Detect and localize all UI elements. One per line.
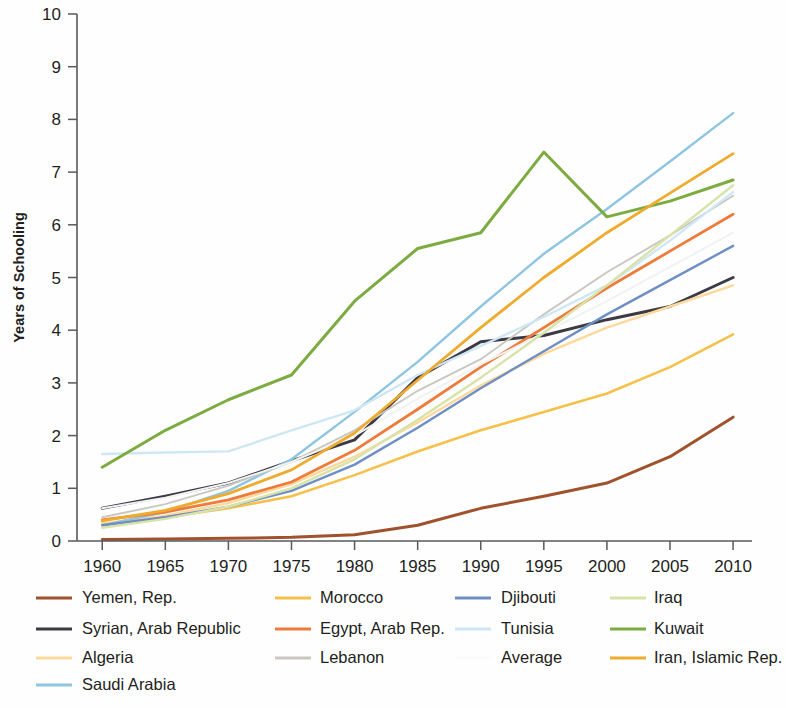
legend-item[interactable]: Iran, Islamic Rep. (610, 648, 782, 666)
legend-item[interactable]: Saudi Arabia (36, 675, 176, 693)
legend-label: Algeria (82, 648, 134, 666)
legend-label: Tunisia (501, 619, 554, 637)
legend-label: Lebanon (320, 648, 384, 666)
series-line-average (102, 233, 733, 509)
y-axis-tick-label: 4 (52, 321, 61, 340)
legend-label: Saudi Arabia (82, 675, 176, 693)
series-line-yemen-rep (102, 417, 733, 539)
series-line-saudi-arabia (102, 113, 733, 525)
y-axis-tick-label: 3 (52, 374, 61, 393)
y-axis-title: Years of Schooling (11, 212, 27, 343)
axes (68, 14, 752, 550)
legend-label: Average (501, 648, 562, 666)
x-axis-tick-label: 1965 (146, 557, 184, 576)
series-line-syrian-arab-republic (102, 278, 733, 509)
plot-area (102, 113, 733, 539)
x-axis-tick-label: 1980 (336, 557, 374, 576)
series-line-djibouti (102, 246, 733, 525)
legend-item[interactable]: Algeria (36, 648, 134, 666)
y-axis-tick-label: 10 (42, 5, 61, 24)
legend-item[interactable]: Iraq (610, 588, 682, 606)
x-axis-tick-label: 1985 (399, 557, 437, 576)
legend-label: Kuwait (654, 619, 704, 637)
y-axis-tick-label: 0 (52, 532, 61, 551)
legend-label: Yemen, Rep. (82, 588, 177, 606)
legend-label: Syrian, Arab Republic (82, 619, 241, 637)
legend-label: Djibouti (501, 588, 556, 606)
x-axis-tick-label: 1970 (209, 557, 247, 576)
legend-label: Morocco (320, 588, 383, 606)
x-axis-tick-label: 2010 (714, 557, 752, 576)
x-axis-tick-label: 1995 (525, 557, 563, 576)
legend-label: Iraq (654, 588, 682, 606)
y-axis-tick-label: 7 (52, 163, 61, 182)
legend-item[interactable]: Kuwait (610, 619, 704, 637)
y-axis-tick-label: 5 (52, 269, 61, 288)
legend-item[interactable]: Syrian, Arab Republic (36, 619, 241, 637)
years-of-schooling-line-chart: 0123456789101960196519701975198019851990… (0, 0, 786, 708)
y-axis-tick-label: 1 (52, 479, 61, 498)
legend-item[interactable]: Yemen, Rep. (36, 588, 177, 606)
y-axis-tick-label: 9 (52, 58, 61, 77)
chart-legend: Yemen, Rep.Syrian, Arab RepublicAlgeriaS… (36, 588, 782, 693)
series-line-algeria (102, 285, 733, 523)
x-axis-tick-label: 2000 (588, 557, 626, 576)
legend-item[interactable]: Tunisia (455, 619, 554, 637)
x-axis-tick-label: 1975 (273, 557, 311, 576)
legend-label: Egypt, Arab Rep. (320, 619, 445, 637)
legend-item[interactable]: Average (455, 648, 562, 666)
legend-item[interactable]: Morocco (275, 588, 383, 606)
y-axis-tick-label: 6 (52, 216, 61, 235)
legend-item[interactable]: Lebanon (275, 648, 384, 666)
y-axis-tick-label: 2 (52, 427, 61, 446)
y-axis-tick-label: 8 (52, 110, 61, 129)
legend-item[interactable]: Djibouti (455, 588, 556, 606)
x-axis-tick-label: 1960 (83, 557, 121, 576)
x-axis-tick-label: 2005 (651, 557, 689, 576)
legend-item[interactable]: Egypt, Arab Rep. (275, 619, 445, 637)
x-axis-tick-label: 1990 (462, 557, 500, 576)
legend-label: Iran, Islamic Rep. (654, 648, 782, 666)
series-line-iraq (102, 185, 733, 528)
axis-labels: 0123456789101960196519701975198019851990… (11, 5, 752, 576)
